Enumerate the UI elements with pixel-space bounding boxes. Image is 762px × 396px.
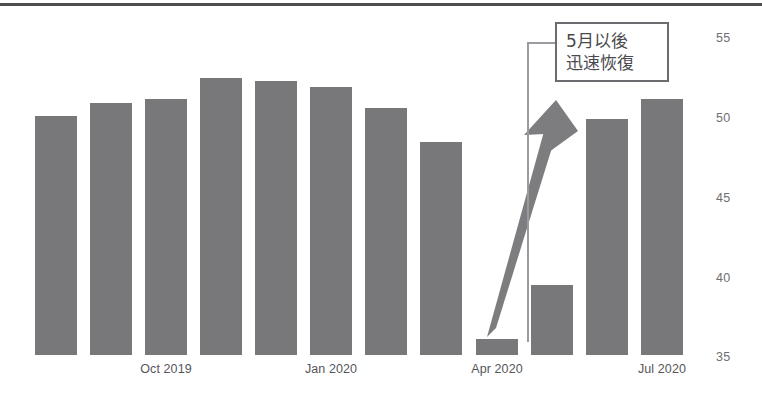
bar-may-2020[interactable]: [531, 285, 573, 355]
bar-jul-2020[interactable]: [641, 99, 683, 355]
bar-nov-2019[interactable]: [200, 78, 242, 355]
chart-figure: 5月以後 迅速恢復 55 50 45 40 35 Oct 2019 Jan 20…: [0, 0, 762, 396]
callout-leader-vertical: [527, 42, 529, 342]
bar-dec-2019[interactable]: [255, 81, 297, 355]
bar-aug-2019[interactable]: [35, 116, 77, 355]
x-tick-jan-2020: Jan 2020: [271, 362, 391, 376]
x-tick-oct-2019: Oct 2019: [106, 362, 226, 376]
y-tick-50: 50: [716, 111, 756, 125]
callout-line-2: 迅速恢復: [566, 52, 634, 74]
y-tick-40: 40: [716, 271, 756, 285]
x-tick-jul-2020: Jul 2020: [602, 362, 722, 376]
y-tick-45: 45: [716, 191, 756, 205]
y-tick-55: 55: [716, 31, 756, 45]
y-tick-35: 35: [716, 350, 756, 364]
callout-leader-horizontal: [527, 42, 556, 44]
bar-jan-2020[interactable]: [310, 87, 352, 355]
bar-jun-2020[interactable]: [586, 119, 628, 355]
recovery-callout-box[interactable]: 5月以後 迅速恢復: [555, 22, 669, 82]
callout-line-1: 5月以後: [566, 30, 628, 52]
x-tick-apr-2020: Apr 2020: [437, 362, 557, 376]
bar-oct-2019[interactable]: [145, 99, 187, 355]
plot-area: 5月以後 迅速恢復 55 50 45 40 35 Oct 2019 Jan 20…: [0, 0, 762, 396]
bar-feb-2020[interactable]: [365, 108, 407, 355]
bar-sep-2019[interactable]: [90, 103, 132, 355]
bar-mar-2020[interactable]: [420, 142, 462, 355]
bar-apr-2020[interactable]: [476, 339, 518, 355]
